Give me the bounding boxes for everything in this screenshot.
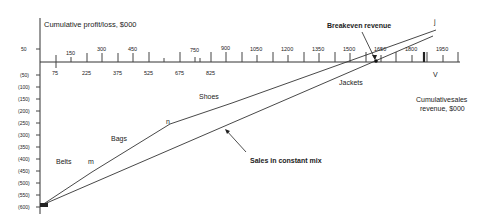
segment-label-jackets: Jackets (339, 79, 363, 86)
x-tick-label: 300 (97, 46, 106, 52)
x-tick-label: 1500 (343, 46, 355, 52)
product-line-path (42, 30, 436, 205)
point-label-j: j (433, 18, 436, 26)
y-tick-label: (550) (18, 192, 30, 198)
x-tick-label: 75 (52, 70, 58, 76)
x-ticks-lower: 75 225 375 525 675 825 (52, 52, 458, 76)
breakeven-chart: Cumulative profit/loss, $000 50 (50) (10… (0, 0, 496, 223)
x-tick-label: 150 (66, 50, 75, 56)
segment-label-shoes: Shoes (199, 93, 219, 100)
constant-mix-label: Sales in constant mix (250, 157, 322, 164)
x-tick-label: 225 (82, 70, 91, 76)
breakeven-point (374, 59, 378, 63)
x-tick-label: 900 (221, 45, 230, 51)
x-tick-label: 1050 (250, 46, 262, 52)
x-tick-label: 675 (175, 70, 184, 76)
y-tick-label: (100) (18, 84, 30, 90)
x-tick-label: 750 (190, 47, 199, 53)
y-tick-label: 50 (21, 46, 27, 52)
x-ticks-upper: 150 300 450 750 900 1050 1200 1350 1500 … (66, 45, 448, 62)
origin-marker (40, 203, 48, 207)
x-tick-label: 525 (144, 70, 153, 76)
y-tick-label: (50) (20, 72, 29, 78)
y-tick-label: (600) (18, 204, 30, 210)
x-tick-label: 1950 (436, 46, 448, 52)
point-label-n: n (166, 118, 170, 125)
x-tick-label: 1200 (281, 46, 293, 52)
x-tick-label: 1350 (312, 46, 324, 52)
y-ticks: 50 (50) (100) (150) (200) (250) (300) (3… (18, 46, 40, 210)
y-tick-label: (350) (18, 144, 30, 150)
y-tick-label: (500) (18, 180, 30, 186)
x-axis-title-line1: Cumulativesales (416, 96, 468, 103)
y-tick-label: (250) (18, 120, 30, 126)
breakeven-label: Breakeven revenue (327, 22, 391, 29)
y-tick-label: (300) (18, 132, 30, 138)
y-tick-label: (400) (18, 156, 30, 162)
x-tick-label: 825 (206, 70, 215, 76)
point-label-m: m (88, 158, 94, 165)
y-axis-title: Cumulative profit/loss, $000 (44, 20, 137, 29)
y-tick-label: (450) (18, 168, 30, 174)
point-label-v: V (433, 71, 438, 78)
constant-mix-arrow (226, 130, 246, 152)
x-axis-title-line2: revenue, $000 (420, 105, 465, 112)
segment-label-belts: Belts (56, 158, 72, 165)
x-tick-label: 450 (128, 46, 137, 52)
x-tick-label: 375 (113, 70, 122, 76)
y-tick-label: (150) (18, 96, 30, 102)
y-tick-label: (200) (18, 108, 30, 114)
segment-label-bags: Bags (111, 135, 127, 143)
